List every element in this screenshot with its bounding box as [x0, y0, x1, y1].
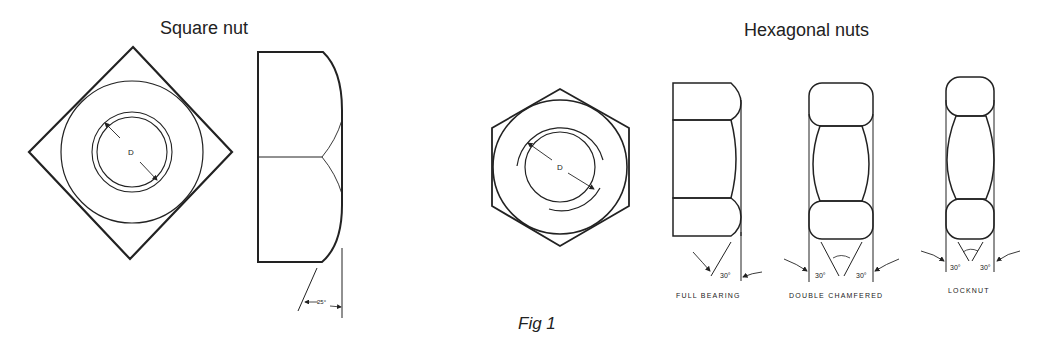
double-chamfered-left-angle: 30°	[815, 272, 826, 279]
hex-diameter-label: D	[557, 163, 563, 172]
locknut-side	[921, 77, 1020, 272]
double-chamfered-nut-side	[784, 83, 899, 282]
caption-full-bearing: FULL BEARING	[676, 292, 741, 299]
square-chamfer-angle: 25°	[317, 299, 327, 305]
full-bearing-nut-side	[673, 83, 762, 281]
double-chamfered-right-angle: 30°	[856, 272, 867, 279]
full-bearing-angle: 30°	[720, 272, 731, 279]
locknut-right-angle: 30°	[980, 264, 991, 271]
diameter-label: D	[128, 148, 134, 157]
nut-drawings: D 25° D 30°	[0, 0, 1047, 342]
caption-locknut: LOCKNUT	[948, 287, 990, 294]
caption-double-chamfered: DOUBLE CHAMFERED	[789, 292, 883, 299]
locknut-left-angle: 30°	[950, 264, 961, 271]
figure-caption: Fig 1	[518, 314, 556, 334]
square-nut-side-view	[258, 52, 342, 318]
